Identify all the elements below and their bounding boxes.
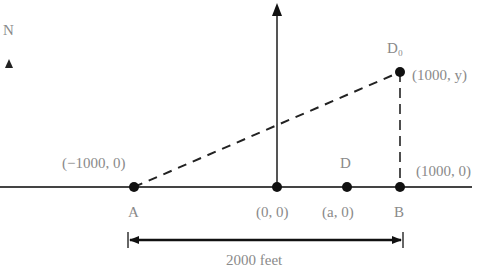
- north-label: N: [3, 22, 14, 38]
- north-indicator: N: [3, 22, 14, 68]
- dimension-line: [128, 232, 403, 248]
- point-origin: [272, 182, 282, 192]
- point-d-label: D: [340, 155, 351, 171]
- origin-coord-label: (0, 0): [256, 204, 289, 221]
- point-a: [129, 182, 139, 192]
- coordinate-diagram: N (−1000, 0) A (0, 0) D (a, 0) B (1000, …: [0, 0, 502, 271]
- point-d: [342, 182, 352, 192]
- point-a-coord-label: (−1000, 0): [62, 155, 125, 172]
- point-d0-label: D₀: [387, 40, 403, 56]
- point-d-coord-label: (a, 0): [322, 204, 354, 221]
- point-b-coord-label: (1000, 0): [416, 163, 471, 180]
- point-d0-coord-label: (1000, y): [412, 67, 467, 84]
- point-b: [395, 182, 405, 192]
- dashed-line-a-d0: [134, 72, 400, 187]
- north-arrow-icon: [5, 59, 13, 68]
- y-axis-arrow-icon: [272, 3, 282, 16]
- point-b-label: B: [394, 204, 404, 220]
- point-a-label: A: [128, 204, 139, 220]
- point-d0: [395, 67, 405, 77]
- dimension-label: 2000 feet: [226, 252, 283, 268]
